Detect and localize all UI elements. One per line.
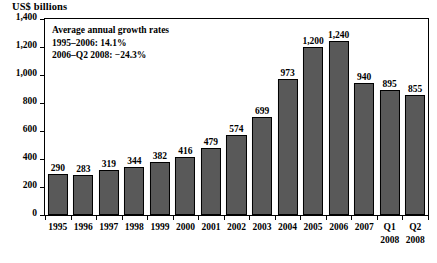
bar-slot: 855 — [402, 19, 428, 215]
x-axis-labels: 1995199619971998199920002001200220032004… — [45, 221, 428, 261]
x-axis-tick-mark — [224, 216, 225, 220]
bar-value-label: 479 — [204, 137, 218, 147]
x-axis-tick-mark — [428, 216, 429, 220]
x-axis-tick-mark — [275, 216, 276, 220]
bar-slot: 940 — [351, 19, 377, 215]
x-axis-label-line1: 2004 — [278, 222, 297, 232]
bar-value-label: 1,240 — [328, 30, 349, 40]
bar-value-label: 319 — [102, 159, 116, 169]
bar — [278, 79, 298, 215]
bar-value-label: 283 — [76, 164, 90, 174]
bar — [329, 41, 349, 215]
bar-value-label: 1,200 — [302, 36, 323, 46]
x-axis-tick-mark — [198, 216, 199, 220]
x-axis-label-line1: 1995 — [48, 222, 67, 232]
x-axis-ticks — [45, 216, 428, 220]
y-axis: 1,4001,2001,0008006004002000 — [0, 18, 44, 216]
x-axis-label: 2007 — [355, 221, 374, 234]
bar — [150, 162, 170, 215]
bar-value-label: 416 — [178, 146, 192, 156]
x-axis-tick-mark — [147, 216, 148, 220]
x-axis-label-line1: Q2 — [409, 222, 421, 232]
annotation-line-1: Average annual growth rates — [52, 24, 169, 37]
bar — [252, 117, 272, 215]
x-axis-tick-mark — [300, 216, 301, 220]
x-axis-label-line1: 2000 — [176, 222, 195, 232]
x-axis-tick-mark — [326, 216, 327, 220]
x-axis-label-line1: 2007 — [355, 222, 374, 232]
x-axis-label-line1: 2003 — [253, 222, 272, 232]
bar — [226, 135, 246, 215]
x-axis-label-line1: 1997 — [99, 222, 118, 232]
bar-slot: 416 — [173, 19, 199, 215]
x-axis-label: 2001 — [201, 221, 220, 234]
x-axis-label-line2: 2008 — [380, 234, 399, 247]
x-axis-label-line1: 1999 — [150, 222, 169, 232]
y-axis-tick-label: 600 — [23, 124, 37, 134]
x-axis-label: 2002 — [227, 221, 246, 234]
x-axis-label: 1999 — [150, 221, 169, 234]
bar-slot: 1,200 — [300, 19, 326, 215]
bar-value-label: 699 — [255, 106, 269, 116]
bar-value-label: 290 — [51, 163, 65, 173]
x-axis-tick-mark — [122, 216, 123, 220]
x-axis-tick-mark — [45, 216, 46, 220]
bar-chart: US$ billions 1,4001,2001,000800600400200… — [0, 0, 437, 263]
y-axis-tick-label: 800 — [23, 96, 37, 106]
bar-slot: 574 — [224, 19, 250, 215]
bar — [124, 167, 144, 215]
x-axis-tick-mark — [71, 216, 72, 220]
y-axis-tick-label: 200 — [23, 180, 37, 190]
bar-value-label: 973 — [280, 68, 294, 78]
x-axis-label: 2005 — [304, 221, 323, 234]
x-axis-tick-mark — [173, 216, 174, 220]
x-axis-label-line1: 1998 — [125, 222, 144, 232]
y-axis-tick-label: 1,400 — [16, 12, 37, 22]
y-axis-tick-label: 1,000 — [16, 68, 37, 78]
bar-value-label: 344 — [127, 156, 141, 166]
x-axis-label-line1: 2005 — [304, 222, 323, 232]
x-axis-label-line1: Q1 — [384, 222, 396, 232]
bar-value-label: 855 — [408, 84, 422, 94]
bar — [201, 148, 221, 215]
x-axis-label: 1998 — [125, 221, 144, 234]
x-axis-label: 2000 — [176, 221, 195, 234]
bar — [99, 170, 119, 215]
x-axis-label-line2: 2008 — [406, 234, 425, 247]
x-axis-label-line1: 1996 — [74, 222, 93, 232]
bar-slot: 1,240 — [326, 19, 352, 215]
x-axis-tick-mark — [96, 216, 97, 220]
bar-value-label: 940 — [357, 72, 371, 82]
y-axis-tick-label: 400 — [23, 152, 37, 162]
x-axis-tick-mark — [402, 216, 403, 220]
bar-slot: 699 — [249, 19, 275, 215]
bar — [48, 174, 68, 215]
x-axis-label: 2003 — [253, 221, 272, 234]
bar — [73, 175, 93, 215]
x-axis-label: Q12008 — [380, 221, 399, 246]
bar-value-label: 574 — [229, 124, 243, 134]
x-axis-label-line1: 2002 — [227, 222, 246, 232]
bar-slot: 973 — [275, 19, 301, 215]
growth-rate-annotation: Average annual growth rates1995–2006: 14… — [52, 24, 169, 62]
bar-value-label: 895 — [383, 79, 397, 89]
annotation-line-3: 2006–Q2 2008: −24.3% — [52, 49, 169, 62]
x-axis-label: Q22008 — [406, 221, 425, 246]
x-axis-label: 2004 — [278, 221, 297, 234]
bar — [380, 90, 400, 215]
chart-axis-title: US$ billions — [12, 1, 67, 12]
y-axis-tick-label: 0 — [32, 208, 37, 218]
x-axis-label: 1995 — [48, 221, 67, 234]
x-axis-tick-mark — [249, 216, 250, 220]
x-axis-label: 1997 — [99, 221, 118, 234]
annotation-line-2: 1995–2006: 14.1% — [52, 37, 169, 50]
y-axis-tick-label: 1,200 — [16, 40, 37, 50]
bar — [405, 95, 425, 215]
bar — [175, 157, 195, 215]
x-axis-label: 1996 — [74, 221, 93, 234]
x-axis-label-line1: 2006 — [329, 222, 348, 232]
bar — [303, 47, 323, 215]
x-axis-label: 2006 — [329, 221, 348, 234]
bar-slot: 479 — [198, 19, 224, 215]
bar — [354, 83, 374, 215]
